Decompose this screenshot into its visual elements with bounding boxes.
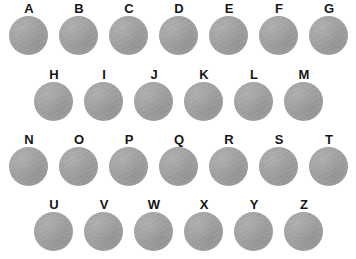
- labeled-circle-cell[interactable]: I: [84, 68, 124, 134]
- circle-label: W: [134, 198, 174, 212]
- labeled-circle-cell[interactable]: A: [9, 2, 49, 68]
- gray-circle[interactable]: [159, 147, 198, 186]
- labeled-circle-cell[interactable]: T: [309, 133, 349, 199]
- circle-row: ABCDEFG: [0, 2, 356, 68]
- circle-label: J: [134, 68, 174, 82]
- circle-label: F: [259, 2, 299, 16]
- labeled-circle-cell[interactable]: W: [134, 198, 174, 259]
- gray-circle[interactable]: [234, 82, 273, 121]
- labeled-circle-cell[interactable]: P: [109, 133, 149, 199]
- labeled-circle-cell[interactable]: U: [34, 198, 74, 259]
- labeled-circle-cell[interactable]: L: [234, 68, 274, 134]
- circle-label: P: [109, 133, 149, 147]
- labeled-circle-cell[interactable]: G: [309, 2, 349, 68]
- labeled-circle-cell[interactable]: N: [9, 133, 49, 199]
- circle-row: NOPQRST: [0, 133, 356, 199]
- gray-circle[interactable]: [284, 82, 323, 121]
- labeled-circle-cell[interactable]: J: [134, 68, 174, 134]
- circle-label: L: [234, 68, 274, 82]
- gray-circle[interactable]: [259, 16, 298, 55]
- circle-label: C: [109, 2, 149, 16]
- circle-label: M: [284, 68, 324, 82]
- gray-circle[interactable]: [84, 212, 123, 251]
- gray-circle[interactable]: [309, 16, 348, 55]
- labeled-circle-cell[interactable]: C: [109, 2, 149, 68]
- circle-label: I: [84, 68, 124, 82]
- gray-circle[interactable]: [209, 147, 248, 186]
- circle-label: U: [34, 198, 74, 212]
- labeled-circle-cell[interactable]: M: [284, 68, 324, 134]
- labeled-circle-cell[interactable]: Y: [234, 198, 274, 259]
- gray-circle[interactable]: [109, 147, 148, 186]
- labeled-circle-cell[interactable]: X: [184, 198, 224, 259]
- circle-label: N: [9, 133, 49, 147]
- circle-row: HIJKLM: [0, 68, 356, 134]
- labeled-circle-cell[interactable]: V: [84, 198, 124, 259]
- gray-circle[interactable]: [234, 212, 273, 251]
- labeled-circle-cell[interactable]: B: [59, 2, 99, 68]
- gray-circle[interactable]: [184, 212, 223, 251]
- circle-label: V: [84, 198, 124, 212]
- circle-label: S: [259, 133, 299, 147]
- circle-label: Q: [159, 133, 199, 147]
- labeled-circle-cell[interactable]: O: [59, 133, 99, 199]
- circle-label: Z: [284, 198, 324, 212]
- gray-circle[interactable]: [34, 82, 73, 121]
- gray-circle[interactable]: [284, 212, 323, 251]
- gray-circle[interactable]: [59, 16, 98, 55]
- circle-label: E: [209, 2, 249, 16]
- labeled-circle-cell[interactable]: H: [34, 68, 74, 134]
- gray-circle[interactable]: [309, 147, 348, 186]
- circle-label: T: [309, 133, 349, 147]
- gray-circle[interactable]: [9, 147, 48, 186]
- gray-circle[interactable]: [9, 16, 48, 55]
- labeled-circle-cell[interactable]: D: [159, 2, 199, 68]
- labeled-circle-cell[interactable]: E: [209, 2, 249, 68]
- circle-grid-plate: ABCDEFGHIJKLMNOPQRSTUVWXYZ: [0, 0, 356, 259]
- circle-label: O: [59, 133, 99, 147]
- circle-label: Y: [234, 198, 274, 212]
- circle-label: K: [184, 68, 224, 82]
- circle-label: X: [184, 198, 224, 212]
- labeled-circle-cell[interactable]: Q: [159, 133, 199, 199]
- labeled-circle-cell[interactable]: Z: [284, 198, 324, 259]
- gray-circle[interactable]: [134, 82, 173, 121]
- gray-circle[interactable]: [159, 16, 198, 55]
- circle-label: B: [59, 2, 99, 16]
- gray-circle[interactable]: [134, 212, 173, 251]
- circle-row: UVWXYZ: [0, 198, 356, 259]
- labeled-circle-cell[interactable]: S: [259, 133, 299, 199]
- gray-circle[interactable]: [259, 147, 298, 186]
- gray-circle[interactable]: [34, 212, 73, 251]
- gray-circle[interactable]: [109, 16, 148, 55]
- gray-circle[interactable]: [184, 82, 223, 121]
- gray-circle[interactable]: [84, 82, 123, 121]
- circle-label: R: [209, 133, 249, 147]
- circle-label: A: [9, 2, 49, 16]
- gray-circle[interactable]: [59, 147, 98, 186]
- circle-label: G: [309, 2, 349, 16]
- circle-label: H: [34, 68, 74, 82]
- circle-label: D: [159, 2, 199, 16]
- labeled-circle-cell[interactable]: F: [259, 2, 299, 68]
- labeled-circle-cell[interactable]: R: [209, 133, 249, 199]
- gray-circle[interactable]: [209, 16, 248, 55]
- labeled-circle-cell[interactable]: K: [184, 68, 224, 134]
